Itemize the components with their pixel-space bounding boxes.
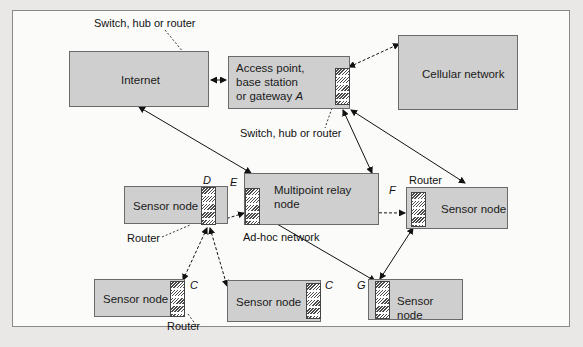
- switch-hub-router-top-label: Switch, hub or router: [94, 17, 196, 29]
- relay-label: Multipoint relay node: [274, 183, 378, 211]
- sensor-d-label: Sensor node: [133, 199, 198, 213]
- sensor-c2-label: Sensor node: [236, 295, 301, 309]
- sensor-c1-label: Sensor node: [103, 292, 168, 306]
- sensor-g-port: [375, 281, 390, 319]
- internet-label: Internet: [121, 73, 160, 87]
- sensor-d-port: [201, 187, 216, 225]
- ap-label-line1: Access point,: [236, 61, 304, 75]
- sensor-d-sensor-c2-link: [210, 228, 227, 286]
- sensor-node-c2: Sensor node: [227, 280, 321, 322]
- relay-sensor-g-link: [265, 217, 375, 281]
- switch-mid-leader: [325, 108, 332, 128]
- sensor-g-label: Sensor node: [397, 294, 462, 322]
- letter-e: E: [230, 176, 237, 188]
- router-left-label: Router: [127, 232, 160, 244]
- sensor-node-f: Sensor node: [406, 187, 508, 229]
- ap-relay-link: [343, 110, 372, 173]
- adhoc-network-label: Ad-hoc network: [243, 231, 319, 243]
- cellular-network-node: Cellular network: [398, 35, 518, 110]
- sensor-node-c1: Sensor node: [94, 279, 185, 317]
- sensor-f-port: [411, 192, 426, 227]
- internet-node: Internet: [69, 51, 209, 107]
- cellular-label: Cellular network: [422, 67, 504, 81]
- sensor-d-sensor-c1-link: [183, 228, 207, 280]
- letter-g: G: [357, 279, 366, 291]
- letter-c2: C: [325, 279, 333, 291]
- internet-relay-link: [139, 107, 251, 173]
- ap-cellular-link: [349, 44, 399, 67]
- switch-hub-router-mid-label: Switch, hub or router: [240, 127, 342, 139]
- sensor-node-d: Sensor node: [124, 186, 228, 224]
- letter-f: F: [389, 184, 396, 196]
- multipoint-relay-node: Multipoint relay node: [244, 173, 379, 225]
- switch-top-leader: [165, 30, 184, 53]
- sensor-node-g: Sensor node: [368, 279, 463, 320]
- ap-label-line3: or gateway A: [236, 89, 303, 103]
- ap-port: [335, 68, 350, 105]
- ap-label-line2: base station: [236, 75, 298, 89]
- sensor-f-label: Sensor node: [441, 202, 506, 216]
- letter-d: D: [203, 174, 211, 186]
- router-right-label: Router: [409, 174, 442, 186]
- sensor-c2-port: [306, 283, 321, 319]
- letter-c1: C: [190, 279, 198, 291]
- router-left-leader: [162, 225, 190, 237]
- relay-port: [245, 188, 260, 225]
- sensor-c1-port: [170, 281, 185, 317]
- router-bottom-label: Router: [167, 320, 200, 332]
- sensor-f-sensor-g-link: [380, 228, 413, 279]
- access-point-node: Access point, base station or gateway A: [228, 56, 350, 109]
